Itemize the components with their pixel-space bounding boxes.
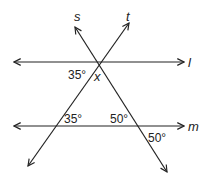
angle-m-right-above: 50° bbox=[110, 112, 128, 126]
angle-m-left: 35° bbox=[64, 112, 82, 126]
line-t bbox=[28, 23, 129, 166]
label-t: t bbox=[126, 9, 131, 24]
geometry-diagram: s t l m 35° x 35° 50° 50° bbox=[0, 0, 207, 183]
line-s bbox=[75, 27, 167, 172]
label-s: s bbox=[74, 9, 81, 24]
angle-top-left: 35° bbox=[68, 68, 86, 82]
angle-m-right-below: 50° bbox=[148, 131, 166, 145]
label-l: l bbox=[188, 55, 192, 70]
angle-x: x bbox=[93, 69, 101, 84]
label-m: m bbox=[188, 119, 199, 134]
